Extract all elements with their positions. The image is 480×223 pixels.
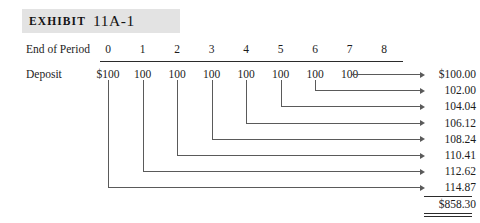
connector-vertical-7 bbox=[315, 80, 316, 90]
future-value-row-8: 114.87 bbox=[424, 181, 476, 193]
period-header-6: 6 bbox=[305, 43, 325, 55]
connector-horizontal-7 bbox=[315, 90, 420, 91]
future-value-row-1: $100.00 bbox=[424, 68, 476, 80]
deposit-value-period-4: 100 bbox=[229, 68, 263, 80]
period-header-7: 7 bbox=[340, 43, 360, 55]
deposit-value-period-2: 100 bbox=[160, 68, 194, 80]
connector-horizontal-6 bbox=[281, 106, 421, 107]
total-rule-top bbox=[424, 196, 472, 197]
period-header-5: 5 bbox=[271, 43, 291, 55]
deposit-value-period-5: 100 bbox=[264, 68, 298, 80]
exhibit-label: EXHIBIT bbox=[29, 15, 86, 27]
exhibit-figure: { "exhibit": { "label": "EXHIBIT", "numb… bbox=[0, 0, 480, 223]
future-value-row-3: 104.04 bbox=[424, 100, 476, 112]
connector-vertical-2 bbox=[143, 80, 144, 171]
exhibit-title-band: EXHIBIT 11A-1 bbox=[22, 9, 180, 33]
deposit-value-period-6: 100 bbox=[298, 68, 332, 80]
total-double-rule-lower bbox=[424, 216, 472, 217]
deposit-value-period-1: 100 bbox=[126, 68, 160, 80]
header-rule bbox=[100, 61, 403, 62]
row-label-deposit: Deposit bbox=[26, 68, 62, 80]
future-value-row-5: 108.24 bbox=[424, 133, 476, 145]
period-header-8: 8 bbox=[374, 43, 394, 55]
connector-vertical-1 bbox=[108, 80, 109, 187]
connector-horizontal-5 bbox=[246, 123, 420, 124]
period-header-3: 3 bbox=[202, 43, 222, 55]
connector-horizontal-1 bbox=[108, 187, 420, 188]
connector-horizontal-8 bbox=[352, 74, 421, 75]
future-value-row-2: 102.00 bbox=[424, 84, 476, 96]
connector-horizontal-2 bbox=[143, 171, 421, 172]
deposit-value-period-3: 100 bbox=[195, 68, 229, 80]
connector-vertical-4 bbox=[212, 80, 213, 139]
period-header-1: 1 bbox=[133, 43, 153, 55]
future-value-row-7: 112.62 bbox=[424, 165, 476, 177]
future-value-row-4: 106.12 bbox=[424, 117, 476, 129]
connector-vertical-6 bbox=[281, 80, 282, 106]
future-value-row-6: 110.41 bbox=[424, 149, 476, 161]
total-value: $858.30 bbox=[424, 198, 476, 210]
connector-horizontal-3 bbox=[177, 155, 420, 156]
row-label-end-of-period: End of Period bbox=[26, 43, 90, 55]
period-header-2: 2 bbox=[167, 43, 187, 55]
period-header-0: 0 bbox=[98, 43, 118, 55]
connector-vertical-5 bbox=[246, 80, 247, 123]
connector-vertical-3 bbox=[177, 80, 178, 155]
exhibit-number: 11A-1 bbox=[93, 12, 135, 30]
total-double-rule-upper bbox=[424, 213, 472, 214]
period-header-4: 4 bbox=[236, 43, 256, 55]
connector-horizontal-4 bbox=[212, 139, 421, 140]
deposit-value-period-0: $100 bbox=[91, 68, 125, 80]
